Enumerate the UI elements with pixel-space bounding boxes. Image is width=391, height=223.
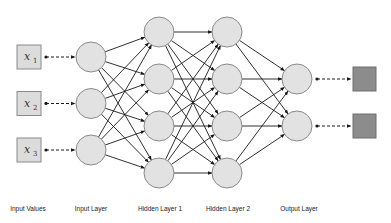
neuron-node: [76, 89, 106, 119]
label-input-values: Input Values: [10, 205, 46, 212]
neuron-node: [212, 111, 242, 141]
label-output-layer: Output Layer: [280, 205, 318, 212]
neuron-node: [76, 42, 106, 72]
neuron-node: [282, 111, 312, 141]
input-variable-subscript: 3: [33, 150, 37, 158]
label-input-layer: Input Layer: [75, 205, 108, 212]
connection-edge: [105, 37, 145, 52]
input-variable-subscript: 2: [33, 104, 37, 112]
output-value-box: [353, 114, 376, 138]
neuron-node: [212, 64, 242, 94]
input-variable-subscript: 1: [33, 57, 37, 65]
neuron-node: [212, 17, 242, 47]
input-variable-label: x: [24, 143, 31, 156]
connection-edge: [239, 40, 284, 70]
input-variable-label: x: [24, 50, 31, 63]
network-nodes: x1x2x3: [17, 17, 376, 188]
connection-edge: [239, 134, 284, 164]
connection-edge: [105, 155, 145, 168]
neuron-node: [144, 158, 174, 188]
connection-edge: [98, 45, 151, 137]
neuron-node: [282, 64, 312, 94]
neural-network-diagram: x1x2x3: [0, 0, 391, 223]
label-hidden-layer-1: Hidden Layer 1: [138, 205, 182, 212]
input-variable-label: x: [24, 97, 31, 110]
neuron-node: [212, 158, 242, 188]
label-hidden-layer-2: Hidden Layer 2: [206, 205, 250, 212]
neuron-node: [144, 64, 174, 94]
neuron-node: [144, 111, 174, 141]
connection-edges: [98, 32, 288, 173]
output-value-box: [353, 67, 376, 91]
neuron-node: [144, 17, 174, 47]
neuron-node: [76, 135, 106, 165]
